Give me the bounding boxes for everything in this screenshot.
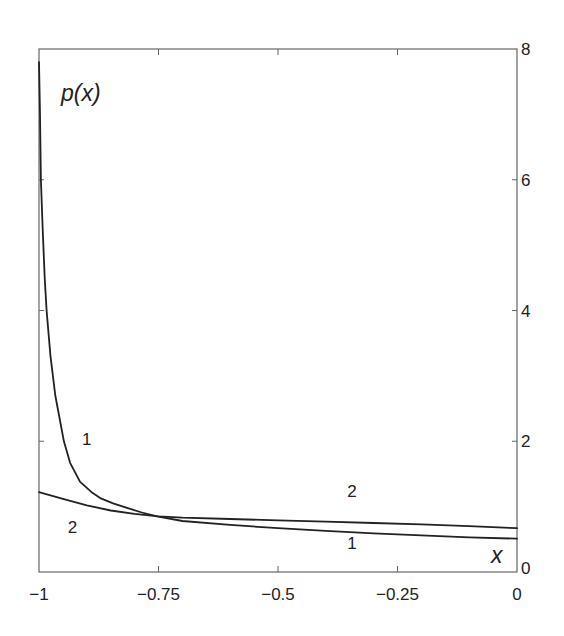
curve-2	[39, 492, 517, 528]
y-tick-label: 6	[521, 171, 530, 190]
x-tick-labels: −1−0.75−0.5−0.250	[29, 585, 521, 604]
curves	[39, 62, 517, 539]
x-tick-label: 0	[512, 585, 521, 604]
plot-frame	[39, 49, 517, 572]
chart: −1−0.75−0.5−0.250 02468 1221 p(x) x	[0, 0, 564, 636]
curve-label-1: 1	[347, 534, 356, 553]
y-tick-label: 0	[521, 559, 530, 578]
axis-ticks	[39, 49, 517, 572]
x-tick-label: −1	[29, 585, 48, 604]
curve-label-2: 2	[347, 482, 356, 501]
x-tick-label: −0.5	[261, 585, 295, 604]
y-tick-label: 8	[521, 40, 530, 59]
y-tick-labels: 02468	[521, 40, 530, 578]
curve-1	[39, 62, 517, 539]
curve-label-2: 2	[68, 518, 77, 537]
y-tick-label: 4	[521, 302, 530, 321]
curve-labels: 1221	[68, 430, 357, 554]
x-axis-label: x	[490, 542, 504, 568]
x-tick-label: −0.25	[376, 585, 419, 604]
y-axis-label: p(x)	[60, 80, 101, 106]
x-tick-label: −0.75	[137, 585, 180, 604]
curve-label-1: 1	[82, 430, 91, 449]
y-tick-label: 2	[521, 432, 530, 451]
